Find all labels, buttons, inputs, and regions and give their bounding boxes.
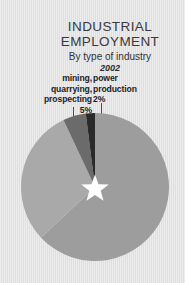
page-title-line2: EMPLOYMENT: [40, 34, 180, 49]
chart-title-block: INDUSTRIAL EMPLOYMENT By type of industr…: [40, 19, 180, 74]
chart-subtitle: By type of industry: [40, 50, 180, 63]
slice-value-power-production: 2%: [93, 94, 153, 105]
page-title-line1: INDUSTRIAL: [40, 19, 180, 34]
slice-label-mining: mining, quarrying, prospecting 5%: [26, 73, 92, 115]
pie-chart: [21, 113, 169, 261]
slice-label-power-line2: production: [93, 84, 137, 94]
slice-label-mining-line1: mining,: [62, 73, 92, 83]
pie-chart-svg: [21, 113, 169, 261]
slice-label-power-line1: power: [93, 73, 118, 83]
slice-label-power-production: power production 2%: [93, 73, 153, 105]
slice-label-mining-line2: quarrying,: [51, 84, 92, 94]
slice-label-mining-line3: prospecting: [44, 94, 92, 104]
